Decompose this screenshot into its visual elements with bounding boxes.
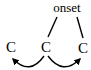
segment-c-left: C bbox=[6, 39, 16, 55]
association-line-left bbox=[48, 17, 57, 37]
association-line-right bbox=[77, 17, 83, 38]
segment-c-right: C bbox=[78, 40, 88, 56]
segment-c-middle: C bbox=[41, 39, 51, 55]
arrow-middle-to-left bbox=[13, 56, 44, 67]
syllable-diagram: onset C C C bbox=[0, 0, 91, 70]
onset-label: onset bbox=[53, 0, 81, 15]
arrow-middle-to-right bbox=[48, 56, 80, 67]
